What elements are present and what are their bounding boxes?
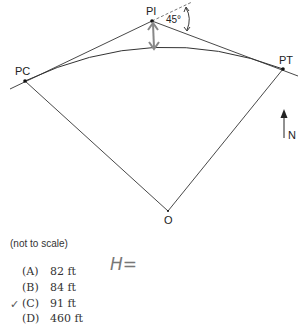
choice-value: 91 ft [50,297,76,310]
choice-letter: (D) [22,313,50,324]
label-o: O [164,215,173,226]
label-pc: PC [15,66,30,77]
not-to-scale-note: (not to scale) [10,238,68,249]
radius-pc [25,81,168,211]
choice-letter: (A) [22,266,50,277]
point-pc [23,79,27,83]
label-pt: PT [279,55,293,66]
back-tangent [10,21,152,89]
angle-label: 45° [166,15,181,25]
choice-b: (B)84 ft [22,282,76,293]
point-pt [281,67,285,71]
radius-pt [168,69,283,211]
curve-diagram [0,0,300,230]
choice-value: 460 ft [50,312,83,325]
curve-arc [25,47,283,81]
label-pi: PI [146,6,156,17]
external-distance-arrow-icon [148,23,159,49]
forward-tangent [152,21,298,76]
point-o [167,210,169,212]
north-label: N [288,130,296,141]
handwritten-note: H= [110,254,137,274]
choice-value: 84 ft [50,281,76,294]
angle-arc-icon [184,7,190,31]
choice-value: 82 ft [50,265,76,278]
choice-c: (C)91 ft [22,298,76,309]
choice-letter: (C) [22,298,50,309]
check-mark-icon: ✓ [10,298,19,311]
choice-letter: (B) [22,282,50,293]
north-arrow-icon [281,109,288,138]
choice-d: (D)460 ft [22,313,83,324]
choice-a: (A)82 ft [22,266,76,277]
